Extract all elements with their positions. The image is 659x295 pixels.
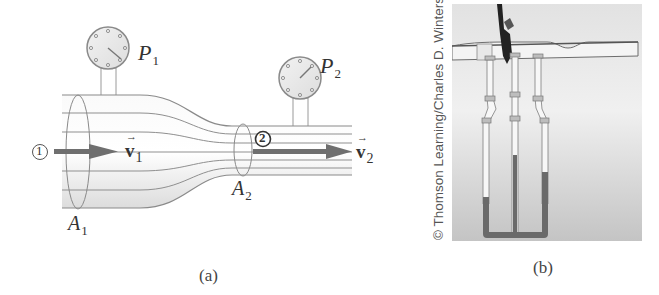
gauge-2-stem [293, 98, 308, 127]
pressure-gauge-1-icon [87, 27, 129, 69]
gauge-1-label: P1 [138, 40, 159, 66]
area-1-label: A1 [68, 212, 88, 235]
point-2-marker: 2 [259, 130, 266, 146]
gauge-2-label: P2 [320, 53, 341, 79]
caption-b: (b) [533, 258, 553, 278]
point-1-marker: 1 [36, 143, 43, 159]
vector-arrow-icon: → [126, 130, 136, 142]
venturi-photo [452, 4, 642, 241]
velocity-1-label: → v1 [125, 140, 143, 162]
caption-a: (a) [199, 266, 218, 286]
velocity-2-label: → v2 [356, 141, 374, 163]
pressure-gauge-2-icon [279, 57, 321, 99]
copyright-text: © Thomson Learning/Charles D. Winters [431, 0, 446, 240]
gauge-1-stem [101, 68, 116, 96]
vector-arrow-icon: → [357, 131, 367, 143]
venturi-figure: 1 2 P1 P2 → v1 → v2 A1 A2 (a) [0, 0, 659, 295]
area-2-label: A2 [232, 177, 252, 200]
